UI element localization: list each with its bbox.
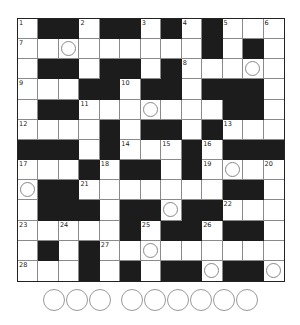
grid-cell[interactable]: 16 xyxy=(202,140,222,160)
grid-cell[interactable]: 25 xyxy=(141,221,161,241)
grid-cell[interactable] xyxy=(141,180,161,200)
answer-letter-circle[interactable] xyxy=(66,289,88,311)
grid-cell[interactable] xyxy=(120,120,140,140)
grid-cell[interactable] xyxy=(264,100,284,120)
grid-cell[interactable]: 24 xyxy=(59,221,79,241)
grid-cell[interactable]: 26 xyxy=(202,221,222,241)
grid-cell[interactable]: 28 xyxy=(18,261,38,281)
grid-cell[interactable] xyxy=(59,241,79,261)
grid-cell[interactable]: 9 xyxy=(18,79,38,99)
grid-cell[interactable]: 10 xyxy=(120,79,140,99)
grid-cell[interactable] xyxy=(18,180,38,200)
grid-cell[interactable] xyxy=(79,59,99,79)
grid-cell[interactable]: 17 xyxy=(18,160,38,180)
grid-cell[interactable] xyxy=(264,180,284,200)
grid-cell[interactable] xyxy=(141,261,161,281)
grid-cell[interactable]: 5 xyxy=(223,19,243,39)
grid-cell[interactable] xyxy=(18,200,38,220)
grid-cell[interactable] xyxy=(264,39,284,59)
grid-cell[interactable] xyxy=(223,160,243,180)
grid-cell[interactable]: 27 xyxy=(100,241,120,261)
grid-cell[interactable]: 12 xyxy=(18,120,38,140)
grid-cell[interactable] xyxy=(100,39,120,59)
grid-cell[interactable] xyxy=(141,140,161,160)
grid-cell[interactable] xyxy=(161,200,181,220)
grid-cell[interactable] xyxy=(100,180,120,200)
grid-cell[interactable] xyxy=(59,39,79,59)
grid-cell[interactable]: 14 xyxy=(120,140,140,160)
grid-cell[interactable]: 2 xyxy=(79,19,99,39)
grid-cell[interactable] xyxy=(264,221,284,241)
grid-cell[interactable]: 6 xyxy=(264,19,284,39)
grid-cell[interactable] xyxy=(161,241,181,261)
grid-cell[interactable] xyxy=(161,100,181,120)
grid-cell[interactable] xyxy=(100,100,120,120)
grid-cell[interactable] xyxy=(182,180,202,200)
grid-cell[interactable] xyxy=(243,160,263,180)
answer-letter-circle[interactable] xyxy=(213,289,235,311)
grid-cell[interactable] xyxy=(202,59,222,79)
grid-cell[interactable] xyxy=(59,79,79,99)
grid-cell[interactable] xyxy=(18,100,38,120)
grid-cell[interactable]: 21 xyxy=(79,180,99,200)
answer-letter-circle[interactable] xyxy=(121,289,143,311)
grid-cell[interactable]: 20 xyxy=(264,160,284,180)
grid-cell[interactable] xyxy=(18,241,38,261)
grid-cell[interactable] xyxy=(161,160,181,180)
grid-cell[interactable] xyxy=(202,180,222,200)
grid-cell[interactable]: 1 xyxy=(18,19,38,39)
grid-cell[interactable] xyxy=(18,59,38,79)
grid-cell[interactable]: 8 xyxy=(182,59,202,79)
grid-cell[interactable] xyxy=(243,120,263,140)
grid-cell[interactable]: 7 xyxy=(18,39,38,59)
grid-cell[interactable] xyxy=(38,221,58,241)
grid-cell[interactable] xyxy=(120,241,140,261)
grid-cell[interactable] xyxy=(243,241,263,261)
grid-cell[interactable] xyxy=(100,261,120,281)
grid-cell[interactable] xyxy=(264,200,284,220)
grid-cell[interactable] xyxy=(264,79,284,99)
grid-cell[interactable] xyxy=(264,59,284,79)
grid-cell[interactable] xyxy=(223,59,243,79)
grid-cell[interactable] xyxy=(38,160,58,180)
answer-letter-circle[interactable] xyxy=(236,289,258,311)
answer-letter-circle[interactable] xyxy=(89,289,111,311)
answer-letter-circle[interactable] xyxy=(43,289,65,311)
answer-letter-circle[interactable] xyxy=(144,289,166,311)
grid-cell[interactable] xyxy=(223,241,243,261)
grid-cell[interactable] xyxy=(264,241,284,261)
grid-cell[interactable] xyxy=(243,200,263,220)
grid-cell[interactable]: 22 xyxy=(223,200,243,220)
grid-cell[interactable] xyxy=(38,120,58,140)
grid-cell[interactable] xyxy=(182,100,202,120)
grid-cell[interactable] xyxy=(79,140,99,160)
grid-cell[interactable] xyxy=(100,200,120,220)
grid-cell[interactable] xyxy=(141,39,161,59)
grid-cell[interactable] xyxy=(264,120,284,140)
grid-cell[interactable] xyxy=(120,100,140,120)
answer-letter-circle[interactable] xyxy=(167,289,189,311)
grid-cell[interactable]: 15 xyxy=(161,140,181,160)
grid-cell[interactable] xyxy=(223,39,243,59)
grid-cell[interactable] xyxy=(79,120,99,140)
grid-cell[interactable] xyxy=(161,180,181,200)
grid-cell[interactable] xyxy=(161,39,181,59)
grid-cell[interactable] xyxy=(202,100,222,120)
grid-cell[interactable] xyxy=(100,221,120,241)
grid-cell[interactable] xyxy=(141,100,161,120)
grid-cell[interactable] xyxy=(38,261,58,281)
grid-cell[interactable] xyxy=(38,79,58,99)
grid-cell[interactable] xyxy=(79,221,99,241)
grid-cell[interactable] xyxy=(264,261,284,281)
answer-letter-circle[interactable] xyxy=(190,289,212,311)
grid-cell[interactable] xyxy=(182,79,202,99)
grid-cell[interactable] xyxy=(182,39,202,59)
grid-cell[interactable] xyxy=(79,39,99,59)
grid-cell[interactable] xyxy=(182,120,202,140)
grid-cell[interactable] xyxy=(59,261,79,281)
grid-cell[interactable] xyxy=(243,59,263,79)
grid-cell[interactable] xyxy=(120,180,140,200)
grid-cell[interactable] xyxy=(182,241,202,261)
grid-cell[interactable] xyxy=(141,59,161,79)
grid-cell[interactable]: 3 xyxy=(141,19,161,39)
